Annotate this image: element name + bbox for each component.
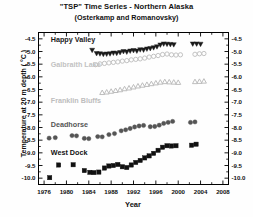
svg-text:-10.0: -10.0 bbox=[22, 174, 37, 181]
svg-text:-5.0: -5.0 bbox=[25, 48, 36, 55]
svg-text:-6.5: -6.5 bbox=[232, 86, 243, 93]
svg-text:1976: 1976 bbox=[37, 188, 51, 195]
series-label-west-dock: West Dock bbox=[51, 148, 88, 157]
svg-text:-9.5: -9.5 bbox=[25, 162, 36, 169]
svg-text:-7.5: -7.5 bbox=[232, 111, 243, 118]
svg-text:-5.5: -5.5 bbox=[232, 60, 243, 67]
svg-text:-9.5: -9.5 bbox=[232, 162, 243, 169]
svg-text:2004: 2004 bbox=[194, 188, 208, 195]
svg-text:2000: 2000 bbox=[171, 188, 185, 195]
series-label-happy-valley: Happy Valley bbox=[51, 35, 95, 44]
svg-text:-9.0: -9.0 bbox=[25, 149, 36, 156]
svg-text:-8.5: -8.5 bbox=[25, 136, 36, 143]
svg-text:1988: 1988 bbox=[104, 188, 118, 195]
svg-text:-7.0: -7.0 bbox=[232, 98, 243, 105]
svg-text:-7.0: -7.0 bbox=[25, 98, 36, 105]
svg-text:2008: 2008 bbox=[216, 188, 230, 195]
svg-text:1996: 1996 bbox=[149, 188, 163, 195]
svg-text:-9.0: -9.0 bbox=[232, 149, 243, 156]
svg-text:-7.5: -7.5 bbox=[25, 111, 36, 118]
svg-text:-4.5: -4.5 bbox=[25, 35, 36, 42]
svg-text:-6.5: -6.5 bbox=[25, 86, 36, 93]
series-label-franklin-bluffs: Franklin Bluffs bbox=[51, 96, 101, 105]
svg-text:-10.0: -10.0 bbox=[232, 174, 247, 181]
svg-text:1980: 1980 bbox=[60, 188, 74, 195]
svg-text:-5.5: -5.5 bbox=[25, 60, 36, 67]
svg-text:1992: 1992 bbox=[127, 188, 141, 195]
svg-text:-4.5: -4.5 bbox=[232, 35, 243, 42]
svg-text:-8.0: -8.0 bbox=[25, 124, 36, 131]
series-franklin-bluffs bbox=[100, 79, 207, 95]
plot-area: 197619801984198819921996200020042008-4.5… bbox=[0, 0, 253, 217]
series-label-deadhorse: Deadhorse bbox=[51, 120, 88, 129]
series-happy-valley bbox=[90, 42, 203, 57]
series-label-galbraith-lake: Galbraith Lake bbox=[51, 60, 101, 69]
svg-text:-6.0: -6.0 bbox=[25, 73, 36, 80]
svg-text:-5.0: -5.0 bbox=[232, 48, 243, 55]
svg-text:-8.5: -8.5 bbox=[232, 136, 243, 143]
svg-text:1984: 1984 bbox=[82, 188, 96, 195]
svg-text:-6.0: -6.0 bbox=[232, 73, 243, 80]
chart-figure: "TSP" Time Series - Northern Alaska (Ost… bbox=[0, 0, 253, 217]
svg-text:-8.0: -8.0 bbox=[232, 124, 243, 131]
